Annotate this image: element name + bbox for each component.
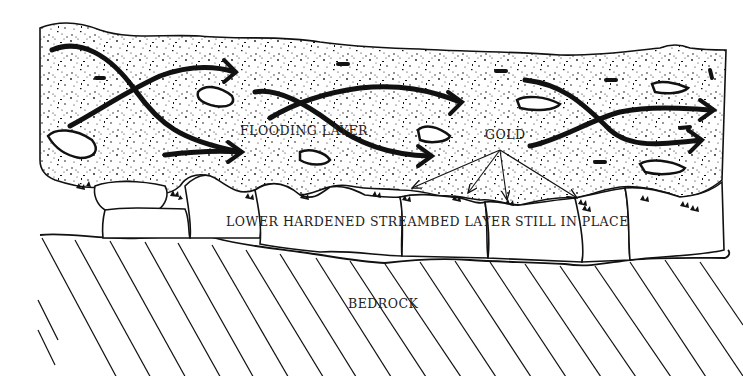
diagram-drawing <box>0 0 743 376</box>
bedrock-label: BEDROCK <box>348 296 418 311</box>
flooding-layer-body <box>40 23 726 205</box>
geologic-cross-section-diagram: FLOODING LAYER GOLD LOWER HARDENED STREA… <box>0 0 743 376</box>
gold-label: GOLD <box>485 127 526 142</box>
hardened-streambed-label: LOWER HARDENED STREAMBED LAYER STILL IN … <box>226 214 629 229</box>
flooding-layer-label: FLOODING LAYER <box>240 123 368 138</box>
